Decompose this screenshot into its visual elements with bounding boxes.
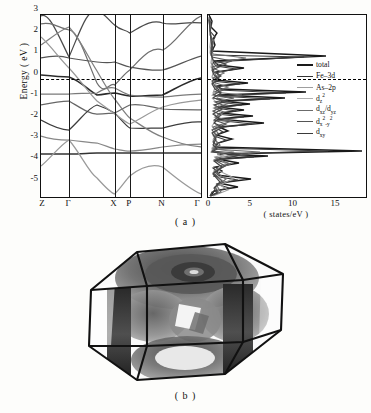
y-tick: 3 — [34, 4, 39, 13]
k-tick: Z — [39, 198, 45, 208]
dos-tick: 15 — [331, 198, 340, 208]
band-structure-plot — [40, 14, 202, 198]
legend-label: dx2-y2 — [316, 116, 332, 127]
y-tick: 2 — [34, 25, 39, 34]
legend-swatch-icon — [297, 76, 313, 77]
kpoint-gridline — [163, 15, 164, 197]
legend-label: Fe–3d — [316, 72, 335, 80]
k-tick: X — [110, 198, 117, 208]
y-tick: -4 — [31, 152, 39, 161]
legend-item-as2p: As–2p — [297, 82, 369, 93]
kpoint-gridline — [69, 15, 70, 197]
caption-a: ( a ) — [0, 216, 371, 227]
y-tick: 0 — [34, 67, 39, 76]
caption-b: ( b ) — [0, 390, 371, 401]
fermi-surface-brillouin-zone — [75, 234, 300, 392]
fermi-sheets — [75, 234, 300, 392]
dos-tick: 10 — [288, 198, 297, 208]
legend-item-dx2y2: dx2-y2 — [297, 116, 369, 127]
legend-swatch-icon — [297, 121, 313, 122]
figure-panel-b: ( b ) — [0, 232, 371, 392]
kpoint-gridline — [130, 15, 131, 197]
legend-swatch-icon — [297, 110, 313, 111]
legend-swatch-icon — [297, 87, 313, 88]
legend-label: dz2 — [316, 93, 325, 104]
dos-tick: 5 — [247, 198, 252, 208]
legend-swatch-icon — [297, 98, 313, 99]
legend-label: total — [316, 61, 330, 69]
legend-item-dxz-dyz: dxz/dyz — [297, 105, 369, 116]
y-tick: -1 — [31, 88, 39, 97]
figure-panel-a: Energy ( eV ) 3 2 1 0 -1 -2 -3 -4 -5 — [0, 0, 371, 232]
y-tick: -3 — [31, 131, 39, 140]
legend-swatch-icon — [297, 133, 313, 134]
legend-item-dxy: dxy — [297, 127, 369, 138]
y-tick: 1 — [34, 46, 39, 55]
dos-tick: 0 — [206, 198, 211, 208]
dos-legend: total Fe–3d As–2p dz2 dxz/dyz dx2-y2 dxy — [297, 59, 369, 139]
legend-item-total: total — [297, 59, 369, 70]
band-k-axis-ticks: Z Γ X P N Γ — [40, 198, 200, 210]
fermi-level-line — [41, 79, 201, 80]
k-tick: Γ — [194, 198, 199, 208]
legend-item-dz2: dz2 — [297, 93, 369, 104]
legend-label: As–2p — [316, 84, 336, 92]
k-tick: P — [126, 198, 131, 208]
fermi-surface-render — [75, 234, 300, 392]
legend-label: dxz/dyz — [316, 105, 336, 115]
legend-label: dxy — [316, 128, 325, 138]
legend-item-fe3d: Fe–3d — [297, 70, 369, 81]
y-tick: -5 — [31, 173, 39, 182]
k-tick: Γ — [65, 198, 70, 208]
legend-swatch-icon — [297, 64, 313, 66]
band-curves — [41, 15, 201, 197]
kpoint-gridline — [115, 15, 116, 197]
k-tick: N — [158, 198, 165, 208]
band-y-axis-ticks: 3 2 1 0 -1 -2 -3 -4 -5 — [22, 8, 38, 200]
y-tick: -2 — [31, 110, 39, 119]
